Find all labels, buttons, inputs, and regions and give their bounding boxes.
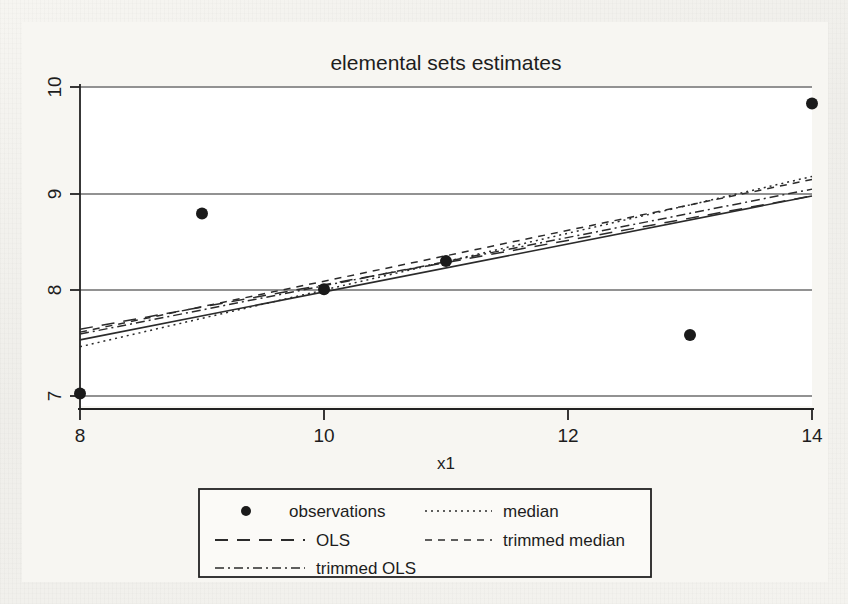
x-axis-title: x1 [437, 454, 455, 473]
data-point [440, 255, 452, 267]
chart-figure: elemental sets estimates 10 9 8 7 [22, 22, 828, 582]
data-point [196, 207, 208, 219]
data-point [684, 329, 696, 341]
x-axis: 8 10 12 14 x1 [75, 409, 823, 473]
data-point [806, 98, 818, 110]
legend-label-trimmed-median: trimmed median [503, 531, 625, 550]
chart-title: elemental sets estimates [330, 51, 561, 74]
y-axis: 10 9 8 7 [44, 76, 81, 408]
figure-page: elemental sets estimates 10 9 8 7 [0, 0, 848, 604]
y-tick-label-10: 10 [44, 76, 65, 97]
data-point [318, 283, 330, 295]
x-tick-label-8: 8 [75, 425, 86, 446]
chart-legend: observations median OLS trimmed median t… [199, 489, 651, 578]
legend-marker-observations [241, 506, 251, 516]
y-tick-label-9: 9 [44, 189, 65, 200]
legend-label-trimmed-ols: trimmed OLS [316, 559, 416, 578]
x-tick-label-14: 14 [801, 425, 823, 446]
chart-canvas: elemental sets estimates 10 9 8 7 [22, 22, 828, 582]
x-tick-label-10: 10 [313, 425, 334, 446]
plot-panel-background [80, 86, 812, 406]
y-tick-label-8: 8 [44, 285, 65, 296]
legend-label-ols: OLS [316, 531, 350, 550]
x-tick-label-12: 12 [557, 425, 578, 446]
legend-label-observations: observations [289, 502, 385, 521]
legend-label-median: median [503, 502, 559, 521]
y-tick-label-7: 7 [44, 391, 65, 402]
data-point [74, 387, 86, 399]
